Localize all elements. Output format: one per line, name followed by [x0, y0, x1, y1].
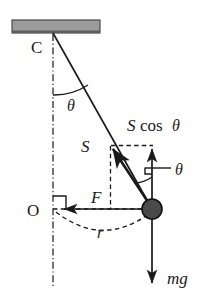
- ceiling-support: [12, 20, 100, 33]
- label-pivot-C: C: [31, 38, 42, 57]
- label-center-O: O: [27, 201, 39, 220]
- label-tension-vertical-component: S cos θ: [127, 116, 180, 135]
- right-angle-marker-at-O: [53, 196, 66, 209]
- physics-diagram-figure: C O θ θ S S cos θ F r mg: [0, 0, 209, 307]
- tension-vector-S: [113, 149, 150, 205]
- label-S-cos-theta-symbol: S: [127, 116, 136, 135]
- label-force-F: F: [90, 188, 102, 207]
- label-S-cos-theta-angle: θ: [172, 117, 180, 134]
- label-radius-r: r: [97, 224, 104, 241]
- pendulum-bob: [142, 199, 162, 219]
- physics-diagram-canvas: C O θ θ S S cos θ F r mg: [0, 0, 209, 307]
- label-angle-theta-bob: θ: [175, 161, 183, 178]
- label-S-cos-theta-fn: cos: [140, 116, 163, 135]
- label-weight-mg: mg: [167, 269, 188, 288]
- label-angle-theta-top: θ: [67, 97, 75, 114]
- label-tension-S: S: [81, 137, 90, 156]
